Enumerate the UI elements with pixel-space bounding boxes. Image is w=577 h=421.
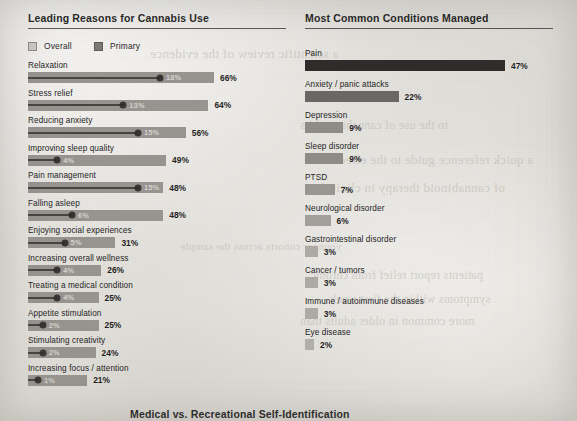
- bar-overall: [28, 347, 96, 358]
- bar-overall-value: 25%: [105, 293, 122, 303]
- bar-condition-value: 3%: [324, 278, 336, 288]
- bar-overall: [28, 375, 87, 386]
- left-row-track: 64%13%: [28, 100, 286, 111]
- left-row-label: Pain management: [28, 171, 286, 180]
- right-row-track: 3%: [305, 277, 553, 288]
- right-chart-row: Gastrointestinal disorder3%: [305, 235, 553, 257]
- bar-condition-value: 9%: [349, 123, 361, 133]
- right-chart-row: Sleep disorder9%: [305, 142, 553, 164]
- right-row-label: Cancer / tumors: [305, 266, 553, 275]
- right-chart-panel: Most Common Conditions Managed Pain47%An…: [305, 0, 553, 359]
- left-chart-row: Relaxation66%18%: [28, 61, 286, 83]
- right-row-track: 6%: [305, 215, 553, 226]
- left-panel-title: Leading Reasons for Cannabis Use: [28, 12, 286, 28]
- legend-swatch-overall-icon: [28, 42, 37, 51]
- right-row-track: 3%: [305, 308, 553, 319]
- bar-condition-value: 22%: [405, 92, 422, 102]
- bar-overall-value: 48%: [169, 210, 186, 220]
- left-row-track: 66%18%: [28, 72, 286, 83]
- left-row-label: Enjoying social experiences: [28, 226, 286, 235]
- bar-overall-value: 31%: [121, 238, 138, 248]
- right-chart-rows: Pain47%Anxiety / panic attacks22%Depress…: [305, 49, 553, 350]
- right-chart-row: Pain47%: [305, 49, 553, 71]
- bar-overall: [28, 320, 99, 331]
- legend-label-primary: Primary: [110, 41, 140, 51]
- bar-condition: [305, 153, 343, 164]
- left-row-track: 25%2%: [28, 320, 286, 331]
- left-row-label: Relaxation: [28, 61, 286, 70]
- left-row-track: 48%15%: [28, 182, 286, 193]
- left-chart-row: Pain management48%15%: [28, 171, 286, 193]
- left-chart-panel: Leading Reasons for Cannabis Use Overall…: [28, 0, 286, 391]
- bottom-section-title: Medical vs. Recreational Self-Identifica…: [130, 408, 350, 420]
- legend-item-overall: Overall: [28, 41, 72, 51]
- left-chart-row: Enjoying social experiences31%5%: [28, 226, 286, 248]
- right-row-track: 7%: [305, 184, 553, 195]
- right-row-label: Sleep disorder: [305, 142, 553, 151]
- left-row-track: 31%5%: [28, 237, 286, 248]
- left-chart-row: Improving sleep quality49%4%: [28, 144, 286, 166]
- left-chart-legend: Overall Primary: [28, 41, 286, 51]
- bar-condition-value: 9%: [349, 154, 361, 164]
- bar-condition: [305, 277, 318, 288]
- bar-overall-value: 56%: [192, 128, 209, 138]
- bar-condition-value: 47%: [511, 61, 528, 71]
- bar-condition: [305, 215, 331, 226]
- right-panel-title: Most Common Conditions Managed: [305, 12, 553, 28]
- bar-overall: [28, 265, 101, 276]
- left-row-label: Improving sleep quality: [28, 144, 286, 153]
- right-row-track: 9%: [305, 122, 553, 133]
- right-row-label: Eye disease: [305, 328, 553, 337]
- bar-condition: [305, 308, 318, 319]
- right-chart-row: Cancer / tumors3%: [305, 266, 553, 288]
- left-chart-row: Appetite stimulation25%2%: [28, 309, 286, 331]
- right-row-label: Anxiety / panic attacks: [305, 80, 553, 89]
- bar-condition: [305, 339, 314, 350]
- right-row-track: 47%: [305, 60, 553, 71]
- bar-condition: [305, 60, 505, 71]
- left-row-label: Reducing anxiety: [28, 116, 286, 125]
- left-row-label: Treating a medical condition: [28, 281, 286, 290]
- bar-condition: [305, 184, 335, 195]
- left-chart-row: Increasing focus / attention21%1%: [28, 364, 286, 386]
- right-row-label: Neurological disorder: [305, 204, 553, 213]
- right-panel-rule: [305, 28, 553, 29]
- bar-overall: [28, 155, 166, 166]
- left-row-label: Appetite stimulation: [28, 309, 286, 318]
- right-row-track: 22%: [305, 91, 553, 102]
- bar-overall-value: 49%: [172, 155, 189, 165]
- right-chart-row: PTSD7%: [305, 173, 553, 195]
- right-chart-row: Depression9%: [305, 111, 553, 133]
- left-row-label: Falling asleep: [28, 199, 286, 208]
- bar-overall-value: 64%: [214, 100, 231, 110]
- right-row-track: 9%: [305, 153, 553, 164]
- legend-swatch-primary-icon: [94, 42, 103, 51]
- right-chart-row: Eye disease2%: [305, 328, 553, 350]
- right-row-label: Depression: [305, 111, 553, 120]
- left-chart-row: Treating a medical condition25%4%: [28, 281, 286, 303]
- right-row-label: Immune / autoimmune diseases: [305, 297, 553, 306]
- bar-overall: [28, 72, 214, 83]
- bar-condition-value: 6%: [337, 216, 349, 226]
- left-chart-row: Stress relief64%13%: [28, 89, 286, 111]
- bar-condition-value: 3%: [324, 247, 336, 257]
- bar-overall-value: 21%: [93, 375, 110, 385]
- bar-overall: [28, 100, 208, 111]
- right-chart-row: Anxiety / panic attacks22%: [305, 80, 553, 102]
- left-chart-rows: Relaxation66%18%Stress relief64%13%Reduc…: [28, 61, 286, 386]
- left-chart-row: Stimulating creativity24%2%: [28, 336, 286, 358]
- left-row-label: Increasing focus / attention: [28, 364, 286, 373]
- left-panel-rule: [28, 28, 286, 29]
- legend-label-overall: Overall: [44, 41, 72, 51]
- legend-item-primary: Primary: [94, 41, 140, 51]
- bar-condition: [305, 246, 318, 257]
- bar-overall-value: 25%: [105, 320, 122, 330]
- right-row-label: PTSD: [305, 173, 553, 182]
- bar-condition: [305, 122, 343, 133]
- bar-overall: [28, 182, 163, 193]
- left-row-track: 56%15%: [28, 127, 286, 138]
- left-row-track: 25%4%: [28, 292, 286, 303]
- left-row-track: 24%2%: [28, 347, 286, 358]
- bar-overall-value: 24%: [102, 348, 119, 358]
- bar-overall: [28, 210, 163, 221]
